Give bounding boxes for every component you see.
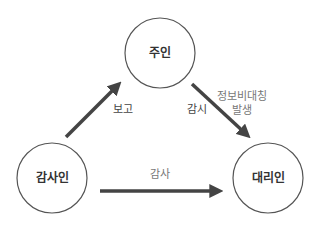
- report-arrow-icon: [66, 86, 117, 137]
- node-principal: 주인: [125, 18, 195, 88]
- node-agent: 대리인: [233, 143, 303, 213]
- edge-audit: 감사: [100, 168, 217, 191]
- info-asymmetry-note-line1: 정보비대칭: [217, 90, 267, 103]
- principal-label: 주인: [149, 45, 171, 60]
- agency-diagram: 주인 감사인 대리인 보고 감시 정보비대칭 발생 감사: [0, 0, 317, 238]
- report-label: 보고: [113, 103, 133, 116]
- audit-label: 감사: [150, 168, 170, 181]
- edge-monitor: 감시 정보비대칭 발생: [187, 84, 267, 134]
- node-auditor: 감사인: [17, 143, 87, 213]
- info-asymmetry-note-line2: 발생: [232, 104, 252, 117]
- auditor-label: 감사인: [36, 170, 69, 185]
- agent-label: 대리인: [252, 170, 285, 185]
- edge-report: 보고: [66, 86, 133, 137]
- monitor-label: 감시: [187, 103, 207, 116]
